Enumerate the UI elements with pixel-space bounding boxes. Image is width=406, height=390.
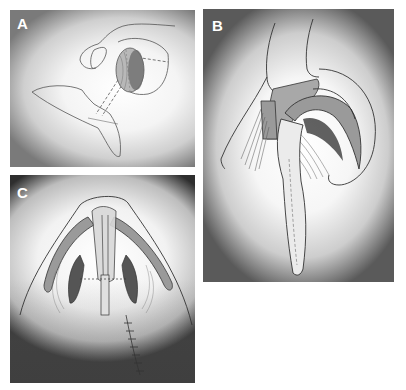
lateral-nose-illustration (10, 10, 195, 167)
basal-nose-illustration (10, 175, 195, 383)
oblique-nose-illustration (203, 9, 394, 282)
figure-panel-b: B (203, 9, 394, 282)
figure-panel-a: A (10, 10, 195, 167)
figure-panel-c: C (10, 175, 195, 383)
